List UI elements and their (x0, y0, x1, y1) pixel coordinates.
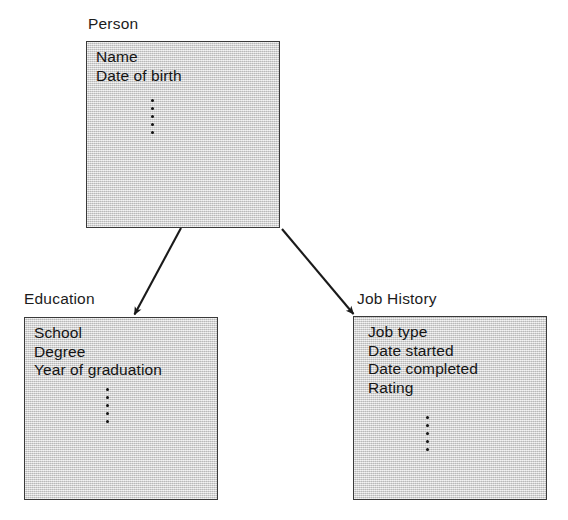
ellipsis-dots-education (106, 388, 109, 423)
ellipsis-dot (426, 432, 429, 435)
ellipsis-dot (106, 396, 109, 399)
entity-label-person: Person (88, 16, 138, 32)
ellipsis-dot (106, 412, 109, 415)
ellipsis-dot (426, 448, 429, 451)
ellipsis-dot (151, 123, 154, 126)
ellipsis-dots-person (151, 99, 154, 134)
entity-box-person[interactable]: Name Date of birth (86, 41, 280, 228)
ellipsis-dot (151, 115, 154, 118)
attribute-item: Degree (34, 343, 213, 362)
entity-label-job-history: Job History (357, 291, 437, 307)
attribute-item: Date completed (368, 360, 542, 379)
attribute-item: Name (96, 48, 275, 67)
ellipsis-dots-job-history (426, 416, 429, 451)
connector-person-to-education (135, 228, 182, 315)
ellipsis-dot (106, 388, 109, 391)
ellipsis-dot (106, 420, 109, 423)
ellipsis-dot (426, 440, 429, 443)
diagram-canvas: Person Name Date of birth Education Scho… (0, 0, 568, 520)
entity-box-education[interactable]: School Degree Year of graduation (24, 317, 218, 500)
attribute-item: School (34, 324, 213, 343)
attribute-item: Rating (368, 379, 542, 398)
ellipsis-dot (426, 416, 429, 419)
ellipsis-dot (426, 424, 429, 427)
attribute-list-education: School Degree Year of graduation (34, 324, 213, 380)
ellipsis-dot (151, 107, 154, 110)
ellipsis-dot (106, 404, 109, 407)
attribute-list-job-history: Job type Date started Date completed Rat… (368, 323, 542, 397)
entity-box-job-history[interactable]: Job type Date started Date completed Rat… (353, 316, 547, 500)
attribute-item: Date started (368, 342, 542, 361)
attribute-item: Date of birth (96, 67, 275, 86)
entity-label-education: Education (24, 291, 95, 307)
attribute-list-person: Name Date of birth (96, 48, 275, 85)
connector-person-to-job-history (282, 229, 354, 314)
ellipsis-dot (151, 131, 154, 134)
ellipsis-dot (151, 99, 154, 102)
attribute-item: Year of graduation (34, 361, 213, 380)
attribute-item: Job type (368, 323, 542, 342)
